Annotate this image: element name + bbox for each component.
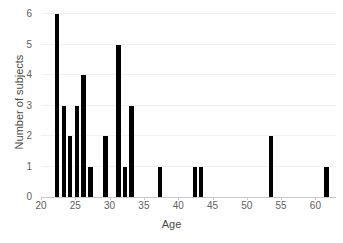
- gridline-y-6: [41, 13, 336, 14]
- bar: [193, 167, 197, 198]
- histogram-figure: 0123456 202530354045505560 Age Number of…: [0, 0, 343, 243]
- bar: [68, 136, 72, 197]
- bar: [199, 167, 203, 198]
- gridline-y-5: [41, 44, 336, 45]
- bar: [116, 45, 120, 198]
- bar: [269, 136, 273, 197]
- bar: [129, 106, 133, 198]
- x-tick-label-40: 40: [163, 201, 193, 211]
- bar: [55, 14, 59, 197]
- bar: [88, 167, 92, 198]
- x-axis-line: [41, 197, 336, 198]
- x-axis-title: Age: [0, 218, 343, 230]
- bar: [62, 106, 66, 198]
- bar: [103, 136, 107, 197]
- x-tick-label-20: 20: [26, 201, 56, 211]
- plot-area: [41, 14, 336, 197]
- x-tick-label-35: 35: [129, 201, 159, 211]
- x-tick-label-50: 50: [232, 201, 262, 211]
- x-tick-mark-55: [281, 197, 282, 200]
- y-tick-label-6: 6: [2, 9, 32, 19]
- x-tick-mark-40: [178, 197, 179, 200]
- bar: [324, 167, 328, 198]
- bar: [75, 106, 79, 198]
- x-tick-mark-20: [41, 197, 42, 200]
- bar: [123, 167, 127, 198]
- x-tick-label-45: 45: [198, 201, 228, 211]
- x-tick-label-60: 60: [300, 201, 330, 211]
- bar: [81, 75, 85, 197]
- x-tick-label-30: 30: [95, 201, 125, 211]
- x-tick-mark-25: [75, 197, 76, 200]
- x-tick-mark-35: [144, 197, 145, 200]
- y-axis-title: Number of subjects: [13, 32, 25, 172]
- x-tick-mark-50: [247, 197, 248, 200]
- x-tick-mark-45: [213, 197, 214, 200]
- bar: [158, 167, 162, 198]
- x-tick-label-55: 55: [266, 201, 296, 211]
- x-tick-mark-30: [110, 197, 111, 200]
- x-tick-mark-60: [315, 197, 316, 200]
- x-tick-label-25: 25: [60, 201, 90, 211]
